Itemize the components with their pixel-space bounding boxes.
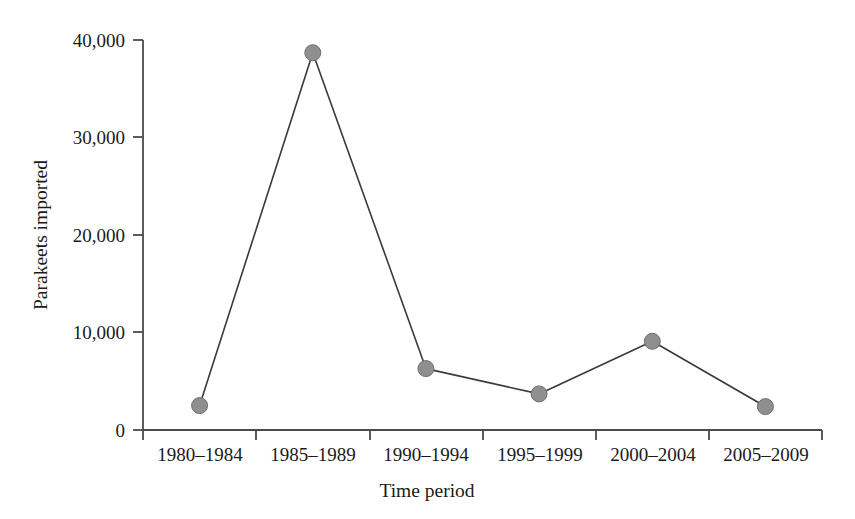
y-tick-label-0: 0 [116, 420, 126, 441]
data-point-marker [418, 361, 434, 377]
data-point-marker [757, 399, 773, 415]
y-tick-label-30000: 30,000 [73, 127, 125, 148]
data-point-marker [531, 386, 547, 402]
data-point-marker [644, 333, 660, 349]
x-axis-title: Time period [379, 480, 474, 501]
line-chart-figure: 40,000 30,000 20,000 10,000 0 1980–1984 … [0, 0, 855, 519]
data-point-marker [305, 45, 321, 61]
y-tick-label-10000: 10,000 [73, 322, 125, 343]
y-tick-label-20000: 20,000 [73, 225, 125, 246]
y-tick-label-40000: 40,000 [73, 30, 125, 51]
x-tick-label-1980-1984: 1980–1984 [157, 444, 243, 465]
x-tick-label-1990-1994: 1990–1994 [383, 444, 469, 465]
chart-background [0, 0, 855, 519]
y-axis-title: Parakeets imported [30, 160, 51, 310]
x-tick-label-1985-1989: 1985–1989 [270, 444, 356, 465]
x-tick-label-2005-2009: 2005–2009 [723, 444, 809, 465]
data-point-marker [192, 398, 208, 414]
x-tick-label-1995-1999: 1995–1999 [497, 444, 583, 465]
chart-canvas: 40,000 30,000 20,000 10,000 0 1980–1984 … [0, 0, 855, 519]
x-tick-label-2000-2004: 2000–2004 [610, 444, 696, 465]
